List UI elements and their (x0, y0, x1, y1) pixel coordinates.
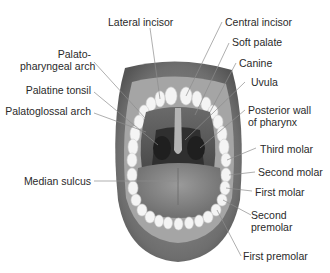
uvula (174, 108, 182, 154)
label-posterior-wall-of-pharynx: Posterior wall of pharynx (248, 104, 311, 128)
label-third-molar: Third molar (260, 143, 313, 155)
mouth-anatomy-diagram: Lateral incisor Palato- pharyngeal arch … (0, 0, 330, 273)
label-lateral-incisor: Lateral incisor (108, 16, 173, 28)
label-palatine-tonsil: Palatine tonsil (10, 84, 91, 96)
label-line-2: of pharynx (248, 116, 311, 128)
label-uvula: Uvula (251, 76, 278, 88)
label-line-2: premolar (251, 221, 292, 233)
label-median-sulcus: Median sulcus (10, 175, 91, 187)
tongue (136, 163, 221, 218)
label-line-1: Palato- (20, 48, 91, 60)
label-first-premolar: First premolar (243, 250, 308, 262)
label-central-incisor: Central incisor (225, 16, 292, 28)
label-line-1: Second (251, 209, 292, 221)
label-palatopharyngeal-arch: Palato- pharyngeal arch (20, 48, 91, 72)
label-soft-palate: Soft palate (232, 36, 282, 48)
label-canine: Canine (239, 57, 272, 69)
label-first-molar: First molar (255, 186, 305, 198)
label-second-molar: Second molar (258, 166, 323, 178)
label-palatoglossal-arch: Palatoglossal arch (0, 105, 91, 117)
label-line-2: pharyngeal arch (20, 60, 91, 72)
label-line-1: Posterior wall (248, 104, 311, 116)
label-second-premolar: Second premolar (251, 209, 292, 233)
